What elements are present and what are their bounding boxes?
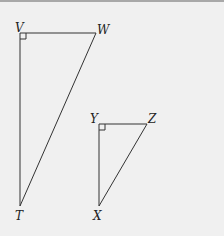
vertex-label-y: Y: [90, 113, 98, 125]
vertex-label-t: T: [15, 210, 23, 222]
vertex-label-x: X: [93, 210, 102, 222]
vertex-label-v: V: [15, 22, 24, 34]
vertex-label-w: W: [97, 24, 109, 36]
triangles-drawing: [0, 0, 224, 236]
vertex-label-z: Z: [148, 113, 156, 125]
triangle-tvw: [20, 33, 96, 206]
right-angle-marker-y: [99, 124, 105, 130]
diagram-canvas: V W T Y Z X: [0, 0, 224, 236]
triangle-xyz: [99, 124, 147, 206]
